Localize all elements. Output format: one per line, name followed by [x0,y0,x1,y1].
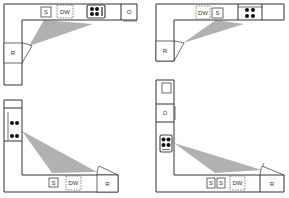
oven-label: O [127,9,132,15]
door-arc [174,41,184,43]
sink-1-label: S [209,180,213,186]
cooktop-icon [8,112,19,140]
wall-cabinet [162,83,171,93]
counter-outline [156,80,284,192]
refrigerator-door-swing [262,166,284,175]
plan-top-right: R DW S [156,4,284,61]
dishwasher-label: DW [60,9,70,15]
work-triangle [29,20,93,46]
refrigerator-label: R [163,48,168,54]
sink-2-label: S [219,180,223,186]
plan-bottom-right: O S S DW R [156,80,284,192]
kitchen-layouts-diagram: R S DW O R DW S [0,0,289,198]
door-arc [97,166,99,175]
plan-top-left: R S DW O [4,4,137,85]
dishwasher-label: DW [69,180,79,186]
refrigerator-label: R [270,181,275,187]
dishwasher-label: DW [233,180,243,186]
refrigerator-label: R [11,50,16,56]
sink-label: S [51,180,55,186]
cooktop-icon [245,8,255,18]
oven-label: O [163,110,168,116]
sink-label: S [215,10,219,16]
dishwasher-label: DW [198,10,208,16]
work-triangle [183,20,244,43]
plan-bottom-left: S DW R [4,100,118,192]
refrigerator-door-swing [99,166,118,175]
refrigerator-label: R [105,181,110,187]
refrigerator-door-swing [22,46,32,63]
cooktop-icon [160,135,172,152]
door-arc [260,163,264,175]
work-triangle [22,131,97,173]
cooktop-icon [87,5,105,18]
work-triangle [174,143,262,173]
sink-label: S [44,9,48,15]
refrigerator-door-swing [174,43,184,61]
